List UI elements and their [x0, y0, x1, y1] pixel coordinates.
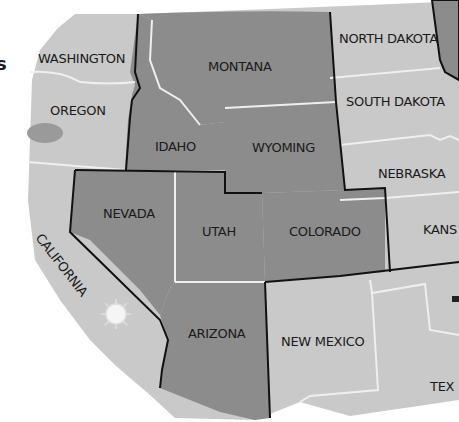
label-nebraska: NEBRASKA	[378, 166, 446, 181]
label-new-mexico: NEW MEXICO	[281, 334, 364, 349]
western-us-map: s WASHINGTON OREGON CALIFORNIA IDAHO MON…	[0, 0, 459, 422]
label-washington: WASHINGTON	[38, 51, 125, 66]
label-kansas: KANS	[423, 222, 457, 237]
label-colorado: COLORADO	[289, 224, 361, 239]
lake-icon	[27, 123, 63, 143]
label-north-dakota: NORTH DAKOTA	[339, 31, 438, 46]
label-arizona: ARIZONA	[188, 326, 246, 341]
label-south-dakota: SOUTH DAKOTA	[346, 94, 445, 109]
label-utah: UTAH	[202, 224, 236, 239]
label-texas: TEX	[429, 379, 455, 394]
label-nevada: NEVADA	[103, 206, 155, 221]
edge-marker	[452, 296, 459, 302]
label-oregon: OREGON	[50, 103, 106, 118]
sun-icon	[101, 299, 131, 329]
edge-text-fragment: s	[0, 53, 7, 74]
label-idaho: IDAHO	[155, 139, 196, 154]
label-montana: MONTANA	[208, 59, 272, 74]
label-wyoming: WYOMING	[252, 140, 315, 155]
